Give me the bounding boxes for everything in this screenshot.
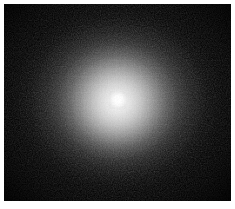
image-frame [4, 4, 231, 201]
source-core [109, 91, 127, 109]
image-canvas [0, 0, 235, 209]
